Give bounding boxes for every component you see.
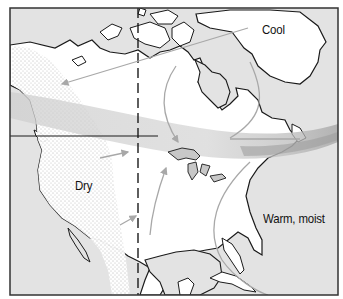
label-cool: Cool bbox=[262, 22, 285, 37]
label-warm-moist: Warm, moist bbox=[263, 211, 325, 226]
label-dry: Dry bbox=[75, 178, 92, 193]
arctic-island-6 bbox=[138, 8, 146, 16]
air-mass-map: Cool Dry Warm, moist bbox=[0, 0, 343, 299]
map-canvas bbox=[0, 0, 343, 299]
